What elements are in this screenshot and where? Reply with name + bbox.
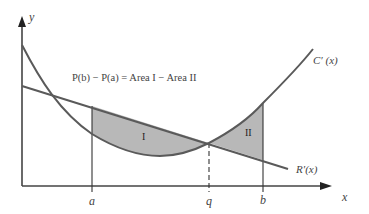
y-axis-arrow-icon xyxy=(18,16,26,27)
diagram-canvas xyxy=(0,0,369,214)
tick-label-a: a xyxy=(89,194,95,209)
y-axis-label: y xyxy=(29,10,34,25)
tick-label-b: b xyxy=(260,193,266,208)
x-axis-label-end: x xyxy=(342,190,347,205)
revenue-curve-label: R′(x) xyxy=(296,163,317,175)
cost-curve-label: C′ (x) xyxy=(313,54,338,66)
profit-area-diagram: y x x a q b P(b) − P(a) = Area I − Area … xyxy=(0,0,369,214)
region-1-label: I xyxy=(142,131,145,142)
tick-label-q: q xyxy=(206,194,212,209)
region-2-label: II xyxy=(245,127,252,138)
equation-label: P(b) − P(a) = Area I − Area II xyxy=(72,72,196,83)
x-axis-arrow-icon xyxy=(320,182,332,190)
